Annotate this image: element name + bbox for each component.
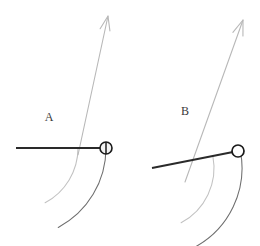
- velocity-arrow-b-shaft: [185, 20, 243, 182]
- ball-b: [232, 145, 244, 157]
- arc-inner-b: [181, 156, 214, 223]
- velocity-arrow-a-shaft: [78, 16, 108, 155]
- arc-outer-a: [58, 148, 106, 227]
- arc-inner-a: [45, 148, 78, 203]
- figure-canvas: A B: [0, 0, 260, 246]
- arc-outer-b: [194, 151, 242, 246]
- panel-b: B: [152, 20, 244, 246]
- panel-a: A: [16, 16, 112, 227]
- figure-root: A B: [0, 0, 260, 246]
- panel-label-a: A: [45, 110, 54, 124]
- rod-b: [152, 152, 233, 168]
- panel-label-b: B: [181, 104, 189, 118]
